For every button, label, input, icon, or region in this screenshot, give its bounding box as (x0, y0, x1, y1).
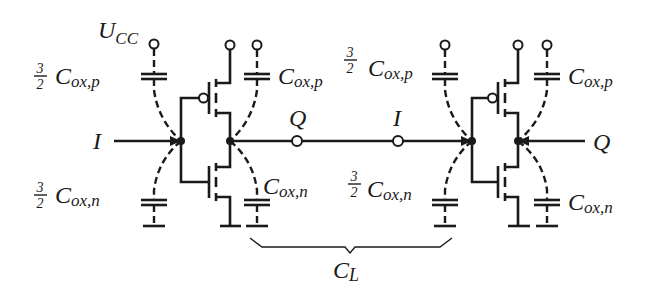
input-i-label: I (392, 105, 402, 131)
output-q-terminal (292, 136, 302, 146)
svg-text:3: 3 (346, 45, 354, 60)
drain-cap-p-label: Cox,p (568, 63, 613, 91)
inverter-1 (114, 40, 270, 227)
vdd-terminal (253, 41, 262, 50)
drain-cap-p-label: Cox,p (278, 63, 323, 91)
pmos-transistor (488, 50, 518, 141)
gate-cap-p-label: 3 2 Cox,p (34, 61, 100, 92)
svg-text:2: 2 (37, 77, 44, 92)
drain-cap-n-label: Cox,n (568, 189, 613, 217)
svg-text:Cox,p: Cox,p (368, 55, 413, 83)
pmos-transistor (199, 50, 230, 141)
gate-cap-n-label: 3 2 Cox,n (34, 180, 100, 211)
gate-cap-p (432, 41, 472, 142)
load-capacitance-label: CL (333, 257, 359, 285)
drain-cap-p (230, 41, 270, 142)
inversion-bubble-icon (199, 94, 208, 103)
input-i-terminal (393, 136, 403, 146)
svg-text:3: 3 (36, 180, 44, 195)
vdd-terminal (514, 41, 523, 50)
gate-cap-n (432, 141, 472, 226)
output-label: Q (593, 129, 610, 155)
input-label: I (92, 128, 102, 154)
vdd-terminal (543, 41, 552, 50)
gate-cap-p (141, 40, 181, 142)
svg-text:3: 3 (36, 61, 44, 76)
load-brace (250, 238, 452, 253)
vdd-terminal (226, 41, 235, 50)
svg-text:Cox,n: Cox,n (367, 176, 412, 204)
gate-cap-n (141, 141, 181, 226)
drain-cap-n-label: Cox,n (263, 173, 308, 201)
drain-cap-p (518, 41, 560, 142)
svg-text:2: 2 (37, 196, 44, 211)
drain-cap-n (518, 141, 560, 226)
nmos-transistor (209, 141, 241, 226)
nmos-gate-wire (181, 141, 209, 182)
output-q-label: Q (289, 105, 306, 131)
svg-text:2: 2 (351, 185, 358, 200)
inverter-2 (432, 41, 585, 227)
pmos-gate-wire (181, 98, 199, 141)
supply-label: UCC (98, 17, 139, 48)
pmos-gate-wire (472, 98, 488, 141)
svg-text:Cox,n: Cox,n (55, 182, 100, 210)
gate-cap-n-label: 3 2 Cox,n (348, 169, 412, 204)
vdd-terminal (150, 40, 159, 49)
svg-text:3: 3 (350, 169, 358, 184)
vdd-terminal (441, 41, 450, 50)
gate-cap-p-label: 3 2 Cox,p (344, 45, 413, 83)
svg-text:2: 2 (347, 61, 354, 76)
inversion-bubble-icon (488, 94, 497, 103)
svg-text:Cox,p: Cox,p (55, 63, 100, 91)
nmos-gate-wire (472, 141, 498, 182)
nmos-transistor (498, 141, 530, 226)
cmos-inverter-chain-diagram: UCC 3 2 Cox,p 3 2 Cox,n I Cox,p Cox,n Q … (0, 0, 657, 300)
